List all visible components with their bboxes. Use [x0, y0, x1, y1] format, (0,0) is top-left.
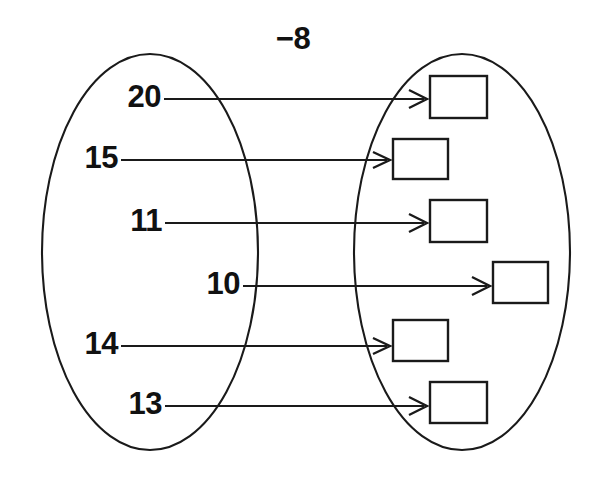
mapping-diagram: −8 20 15 11 10 14: [0, 0, 606, 493]
mapping-row-5: 14: [85, 326, 390, 361]
output-boxes-group: [393, 76, 548, 423]
output-box-3[interactable]: [430, 200, 487, 242]
output-box-4[interactable]: [493, 262, 548, 303]
input-number-3: 11: [130, 203, 162, 238]
mapping-row-4: 10: [207, 266, 490, 301]
input-number-6: 13: [129, 386, 163, 421]
input-number-1: 20: [128, 79, 161, 114]
rule-label: −8: [276, 21, 311, 56]
output-box-5[interactable]: [393, 320, 448, 361]
input-number-2: 15: [85, 140, 119, 175]
mapping-row-6: 13: [129, 386, 427, 421]
output-box-2[interactable]: [393, 139, 448, 179]
mapping-row-1: 20: [128, 79, 427, 114]
mapping-diagram-canvas: −8 20 15 11 10 14: [0, 0, 606, 493]
output-box-6[interactable]: [430, 382, 487, 423]
mapping-row-2: 15: [85, 140, 390, 175]
input-number-5: 14: [85, 326, 120, 361]
input-number-4: 10: [207, 266, 240, 301]
mapping-row-3: 11: [130, 203, 427, 238]
output-box-1[interactable]: [430, 76, 487, 118]
